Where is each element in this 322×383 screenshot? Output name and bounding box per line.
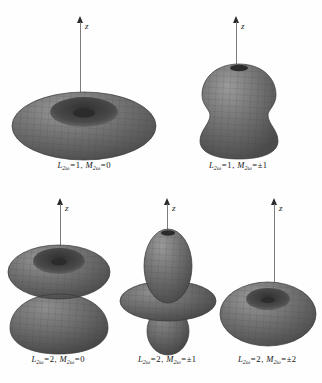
caption-M-value: ±1 <box>258 160 267 170</box>
caption-L-value: 2 <box>256 354 260 364</box>
caption-M-subscript: 2ω <box>244 165 251 171</box>
caption-L2-M0: L2ω=2, M2ω=0 <box>2 354 114 365</box>
z-axis-label: z <box>85 22 89 31</box>
caption-L-subscript: 2ω <box>36 359 43 365</box>
caption-L-subscript: 2ω <box>62 165 69 171</box>
z-axis-label: z <box>172 204 176 213</box>
caption-M-value: ±1 <box>187 354 196 364</box>
caption-M-symbol: M <box>86 160 93 170</box>
z-axis-label: z <box>65 204 69 213</box>
caption-L1-Mpm1: L2ω=1, M2ω=±1 <box>162 160 314 171</box>
z-axis-label: z <box>241 22 245 31</box>
figure-canvas: z <box>0 0 322 383</box>
panel-L2-M0: z <box>2 192 114 378</box>
surface-double-torus <box>4 238 114 356</box>
z-axis-label: z <box>279 204 283 213</box>
caption-M-subscript: 2ω <box>273 359 280 365</box>
surface-lobes-with-ring <box>118 228 218 356</box>
panel-L1-M0: z <box>8 8 160 186</box>
panel-L1-Mpm1: z <box>162 8 314 186</box>
caption-L-value: 2 <box>156 354 160 364</box>
z-axis: z <box>244 198 304 282</box>
z-axis: z <box>206 16 266 68</box>
caption-L2-Mpm1: L2ω=2, M2ω=±1 <box>112 354 222 365</box>
surface-peanut <box>196 62 282 160</box>
z-axis-shaft <box>274 204 275 282</box>
caption-M-subscript: 2ω <box>173 359 180 365</box>
surface-flat-torus <box>217 276 319 348</box>
caption-M-symbol: M <box>60 354 67 364</box>
surface-torus <box>8 86 160 162</box>
caption-M-value: 0 <box>106 160 110 170</box>
caption-L-value: 1 <box>227 160 231 170</box>
caption-L2-Mpm2: L2ω=2, M2ω=±2 <box>214 354 320 365</box>
caption-M-value: ±2 <box>287 354 296 364</box>
caption-M-value: 0 <box>80 354 84 364</box>
panel-L2-Mpm2: z <box>214 192 320 378</box>
caption-L1-M0: L2ω=1, M2ω=0 <box>8 160 160 171</box>
panel-L2-Mpm1: z <box>112 192 222 378</box>
